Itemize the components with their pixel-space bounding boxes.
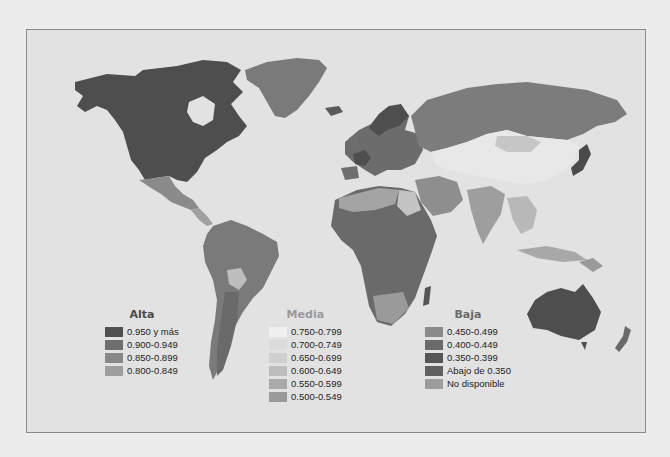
- legend-item: 0.700-0.749: [269, 338, 342, 351]
- legend-swatch: [269, 392, 287, 402]
- legend-label: 0.600-0.649: [291, 365, 342, 376]
- legend-label: 0.450-0.499: [447, 326, 498, 337]
- legend-media: Media 0.750-0.799 0.700-0.749 0.650-0.69…: [269, 308, 342, 403]
- legend-label: 0.500-0.549: [291, 391, 342, 402]
- region-southern-africa: [373, 292, 409, 324]
- legend-label: 0.400-0.449: [447, 339, 498, 350]
- legend-swatch: [269, 379, 287, 389]
- legend-swatch: [425, 366, 443, 376]
- region-indonesia: [517, 246, 587, 262]
- region-north-america: [75, 60, 247, 182]
- region-madagascar: [423, 286, 431, 306]
- legend-swatch: [425, 353, 443, 363]
- legend-swatch: [269, 353, 287, 363]
- legend-item: 0.600-0.649: [269, 364, 342, 377]
- region-new-zealand: [615, 326, 631, 352]
- legend-item: 0.950 y más: [105, 325, 179, 338]
- legend-label: 0.350-0.399: [447, 352, 498, 363]
- legend-label: 0.650-0.699: [291, 352, 342, 363]
- legend-item: No disponible: [425, 377, 511, 390]
- legend-item: 0.450-0.499: [425, 325, 511, 338]
- legend-item: 0.900-0.949: [105, 338, 179, 351]
- legend-alta: Alta 0.950 y más 0.900-0.949 0.850-0.899…: [105, 308, 179, 377]
- legend-label: 0.550-0.599: [291, 378, 342, 389]
- region-southeast-asia: [507, 196, 537, 234]
- legend-swatch: [105, 327, 123, 337]
- map-frame: Alta 0.950 y más 0.900-0.949 0.850-0.899…: [26, 29, 646, 433]
- legend-swatch: [105, 366, 123, 376]
- legend-label: No disponible: [447, 378, 505, 389]
- legend-swatch: [425, 340, 443, 350]
- legend-swatch: [269, 366, 287, 376]
- legend-swatch: [105, 353, 123, 363]
- legend-item: 0.800-0.849: [105, 364, 179, 377]
- legend-swatch: [105, 340, 123, 350]
- legend-item: Abajo de 0.350: [425, 364, 511, 377]
- legend-title-alta: Alta: [105, 308, 179, 321]
- legend-item: 0.350-0.399: [425, 351, 511, 364]
- legend-label: 0.750-0.799: [291, 326, 342, 337]
- legend-label: 0.800-0.849: [127, 365, 178, 376]
- legend-title-media: Media: [269, 308, 342, 321]
- region-tasmania: [581, 342, 587, 350]
- region-south-america: [203, 220, 279, 380]
- legend-label: 0.950 y más: [127, 326, 179, 337]
- region-greenland: [245, 58, 327, 118]
- legend-item: 0.400-0.449: [425, 338, 511, 351]
- legend-swatch: [269, 327, 287, 337]
- legend-swatch: [269, 340, 287, 350]
- region-australia: [527, 284, 601, 340]
- legend-title-baja: Baja: [425, 308, 511, 321]
- legend-swatch: [425, 379, 443, 389]
- legend-swatch: [425, 327, 443, 337]
- legend-item: 0.550-0.599: [269, 377, 342, 390]
- legend-item: 0.850-0.899: [105, 351, 179, 364]
- legend-label: Abajo de 0.350: [447, 365, 511, 376]
- legend-baja: Baja 0.450-0.499 0.400-0.449 0.350-0.399…: [425, 308, 511, 390]
- legend-item: 0.650-0.699: [269, 351, 342, 364]
- region-iberia: [341, 166, 359, 180]
- region-central-america: [191, 208, 213, 226]
- region-india: [467, 186, 505, 244]
- legend-label: 0.700-0.749: [291, 339, 342, 350]
- legend-item: 0.500-0.549: [269, 390, 342, 403]
- legend-item: 0.750-0.799: [269, 325, 342, 338]
- legend-label: 0.900-0.949: [127, 339, 178, 350]
- legend-label: 0.850-0.899: [127, 352, 178, 363]
- region-mexico: [139, 176, 199, 210]
